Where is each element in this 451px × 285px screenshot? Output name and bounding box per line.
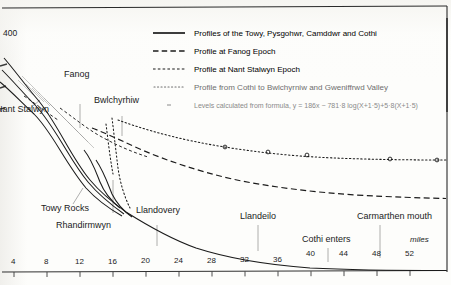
legend-swatch-solid-icon — [152, 30, 186, 36]
chart-figure: 400 Fanog Bwlchyrhiw Nant Stalwyn Towy R… — [0, 0, 451, 285]
legend-swatch-dot-marker-icon — [152, 102, 186, 108]
annotation-label-nant-stalwyn: Nant Stalwyn — [0, 104, 56, 115]
legend-swatch-dashed-icon — [152, 48, 186, 54]
x-axis-units-label: miles — [410, 236, 429, 244]
annotation-label-fanog: Fanog — [64, 70, 90, 79]
legend-label-cothi-gweniffrwd: Profile from Cothi to Bwlchyrniw and Gwe… — [194, 83, 388, 92]
legend-item-calculated-levels: Levels calculated from formula, y = 186x… — [152, 96, 448, 114]
annotation-label-llandovery: Llandovery — [136, 206, 180, 215]
x-tick-label-48: 48 — [372, 250, 381, 258]
annotation-label-llandeilo: Llandeilo — [240, 212, 276, 221]
legend-label-fanog-epoch: Profile at Fanog Epoch — [194, 47, 275, 56]
annotation-label-cothi-enters: Cothi enters — [302, 235, 351, 244]
legend: Profiles of the Towy, Pysgohwr, Camddwr … — [152, 24, 448, 114]
annotation-label-towy-rocks: Towy Rocks — [41, 204, 89, 213]
annotation-label-bwlchyrhiw: Bwlchyrhiw — [94, 96, 139, 105]
legend-item-cothi-gweniffrwd: Profile from Cothi to Bwlchyrniw and Gwe… — [152, 78, 448, 96]
x-tick-label-12: 12 — [75, 258, 84, 266]
x-tick-label-36: 36 — [273, 256, 282, 264]
x-tick-label-16: 16 — [108, 258, 117, 266]
x-tick-label-20: 20 — [141, 257, 150, 265]
legend-item-fanog-epoch: Profile at Fanog Epoch — [152, 42, 448, 60]
y-axis-ticks — [0, 64, 7, 109]
x-axis — [2, 271, 447, 278]
x-tick-label-24: 24 — [174, 257, 183, 265]
x-tick-label-44: 44 — [339, 250, 348, 258]
series-dashed-fanog-epoch — [92, 128, 446, 199]
x-tick-label-40: 40 — [306, 250, 315, 258]
series-dotted-cothi-gweniffrwd — [106, 118, 446, 208]
annotation-label-rhandirmwyn: Rhandirmwyn — [56, 221, 111, 230]
x-tick-label-8: 8 — [44, 258, 48, 266]
annotation-label-carmarthen-mouth: Carmarthen mouth — [357, 212, 432, 221]
legend-label-nant-stalwyn-epoch: Profile at Nant Stalwyn Epoch — [194, 65, 300, 74]
legend-label-calculated-levels: Levels calculated from formula, y = 186x… — [194, 102, 418, 109]
x-tick-label-52: 52 — [405, 250, 414, 258]
legend-swatch-dotted-icon — [152, 84, 186, 90]
legend-swatch-dashed-fine-icon — [152, 66, 186, 72]
x-tick-label-28: 28 — [207, 257, 216, 265]
legend-item-river-profiles: Profiles of the Towy, Pysgohwr, Camddwr … — [152, 24, 448, 42]
x-tick-label-32: 32 — [240, 256, 249, 264]
y-axis-tick-label-400: 400 — [3, 29, 17, 38]
x-tick-label-4: 4 — [11, 258, 15, 266]
legend-item-nant-stalwyn-epoch: Profile at Nant Stalwyn Epoch — [152, 60, 448, 78]
legend-label-river-profiles: Profiles of the Towy, Pysgohwr, Camddwr … — [194, 29, 377, 38]
